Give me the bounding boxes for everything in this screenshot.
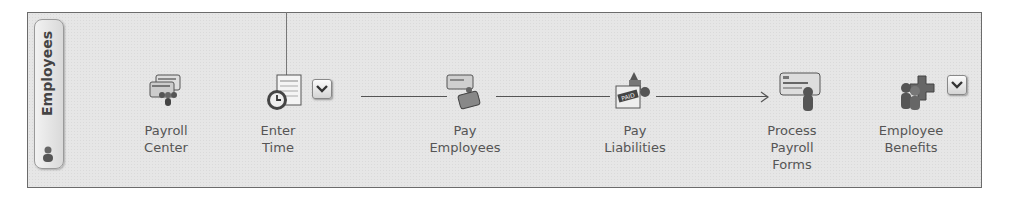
node-label: PayrollCenter: [138, 122, 194, 156]
payroll-center-icon: [148, 73, 182, 107]
chevron-down-icon: [951, 80, 963, 90]
node-label: EmployeeBenefits: [876, 122, 946, 156]
paycheck-icon: [445, 73, 483, 111]
chevron-down-icon: [316, 84, 328, 94]
person-icon: [41, 146, 55, 162]
node-label: PayEmployees: [420, 122, 510, 156]
employee-benefits-dropdown-button[interactable]: [947, 75, 967, 95]
payroll-form-icon: [778, 71, 822, 113]
connector-line: [496, 96, 610, 97]
node-label: PayLiabilities: [595, 122, 675, 156]
connector-line-vertical: [286, 12, 287, 76]
node-label: ProcessPayrollForms: [760, 122, 824, 173]
paid-stamp-icon: PAID: [612, 70, 654, 112]
benefits-icon: [898, 72, 938, 112]
connector-line: [361, 96, 447, 97]
arrow-head-icon: [760, 91, 770, 103]
connector-line: [656, 96, 768, 97]
node-label: EnterTime: [256, 122, 300, 156]
timesheet-clock-icon: [265, 73, 305, 113]
employees-tab-label: Employees: [39, 31, 55, 116]
enter-time-dropdown-button[interactable]: [312, 79, 332, 99]
